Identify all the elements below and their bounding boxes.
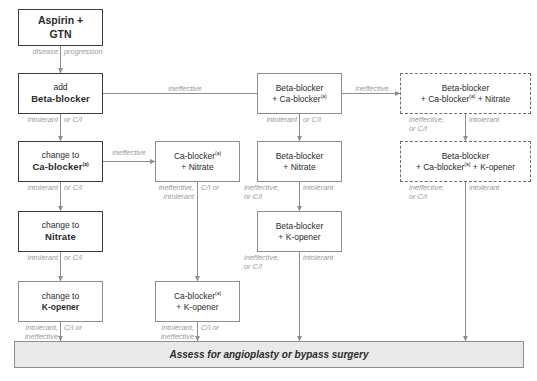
node-line-2: + Ca-blocker(a) xyxy=(272,94,327,105)
edge-label-ineffective-or-ci-col4: ineffective, or C/I xyxy=(409,115,465,133)
edge-label-ineffective-to-ca-blocker-nitrate: ineffective xyxy=(104,148,154,157)
node-line-1: Beta-blocker xyxy=(276,83,324,94)
edge-label-intolerant-col4b: intolerant xyxy=(469,183,525,192)
footnote-marker: (a) xyxy=(464,161,470,167)
node-change-to-nitrate[interactable]: change to Nitrate xyxy=(18,211,103,252)
node-line-1: Beta-blocker xyxy=(442,83,490,94)
node-line-1: Beta-blocker xyxy=(276,221,324,232)
edge-label-ineffective-to-bb-cab: ineffective xyxy=(150,84,220,93)
node-line-1: Aspirin + xyxy=(38,14,83,27)
node-line-2: K-opener xyxy=(42,302,79,313)
footnote-marker: (a) xyxy=(215,290,221,296)
edge-label-or-ci-1: or C/I xyxy=(64,115,114,124)
edge-label-ineffective-to-dashed: ineffective xyxy=(343,84,401,93)
node-ca-blocker-nitrate[interactable]: Ca-blocker(a) + Nitrate xyxy=(155,141,240,182)
edge-label-or-ci-3: or C/I xyxy=(64,253,114,262)
edge-label-intolerant-col3c: intolerant xyxy=(303,253,357,262)
footnote-marker: (a) xyxy=(82,161,88,167)
node-change-to-k-opener[interactable]: change to K-opener xyxy=(18,281,103,322)
footnote-marker: (a) xyxy=(321,93,327,99)
node-beta-blocker-nitrate[interactable]: Beta-blocker + Nitrate xyxy=(257,141,342,182)
node-line-2: Ca-blocker(a) xyxy=(32,161,88,173)
edge-label-ineffective-or-ci-col3b: ineffective, or C/I xyxy=(244,183,298,201)
edge-label-intolerant-2: intolerant xyxy=(6,183,58,192)
node-line-2: + K-opener xyxy=(176,302,218,313)
node-aspirin-gtn[interactable]: Aspirin + GTN xyxy=(18,9,103,46)
edge-label-ci-or-col2b: C/I or xyxy=(201,323,251,332)
edge-label-intolerant-col3: intolerant xyxy=(243,115,297,124)
node-line-1: change to xyxy=(42,220,79,231)
node-beta-blocker-ca-blocker[interactable]: Beta-blocker + Ca-blocker(a) xyxy=(257,73,342,114)
node-line-1: Beta-blocker xyxy=(276,151,324,162)
edge-label-intolerant-col3b: intolerant xyxy=(303,183,357,192)
node-line-2: + Ca-blocker(a) + Nitrate xyxy=(421,94,510,105)
outcome-banner-label: Assess for angioplasty or bypass surgery xyxy=(170,349,369,360)
edge-label-ineffective-or-ci-col3c: ineffective, or C/I xyxy=(244,253,298,271)
node-ca-blocker-k-opener[interactable]: Ca-blocker(a) + K-opener xyxy=(155,281,240,322)
edge-label-intolerant-3: intolerant xyxy=(6,253,58,262)
flowchart-canvas: Aspirin + GTN add Beta-blocker change to… xyxy=(0,0,537,381)
node-line-1: add xyxy=(53,82,67,93)
edge-label-or-ci-2: or C/I xyxy=(64,183,114,192)
node-line-2: GTN xyxy=(49,28,71,41)
node-line-1: change to xyxy=(42,150,79,161)
node-beta-blocker-ca-blocker-nitrate[interactable]: Beta-blocker + Ca-blocker(a) + Nitrate xyxy=(400,73,531,114)
node-line-2: + Nitrate xyxy=(283,162,315,173)
edge-label-intolerant-ineffective-col2b: intolerant, ineffective xyxy=(139,323,194,341)
footnote-marker: (a) xyxy=(215,150,221,156)
node-add-beta-blocker[interactable]: add Beta-blocker xyxy=(18,73,103,114)
edge-label-progression: progression xyxy=(64,47,134,56)
edge-label-or-ci-col3: or C/I xyxy=(303,115,353,124)
edge-label-ci-or-4: C/I or xyxy=(64,323,114,332)
node-line-1: change to xyxy=(42,291,79,302)
node-beta-blocker-k-opener[interactable]: Beta-blocker + K-opener xyxy=(257,211,342,252)
edge-label-disease: disease xyxy=(12,47,58,56)
node-line-2: Beta-blocker xyxy=(31,93,90,105)
outcome-banner[interactable]: Assess for angioplasty or bypass surgery xyxy=(14,341,524,368)
edge-label-ineffective-or-ci-col4b: ineffective, or C/I xyxy=(409,183,465,201)
edge-label-ineffective-intolerant-col2: ineffective, intolerant xyxy=(140,183,194,201)
edge-label-intolerant-col4: intolerant xyxy=(469,115,525,124)
node-line-2: + Nitrate xyxy=(181,162,213,173)
node-line-2: Nitrate xyxy=(45,231,76,243)
node-line-2: + Ca-blocker(a) + K-opener xyxy=(416,162,515,173)
node-line-1: Ca-blocker(a) xyxy=(174,291,221,302)
node-beta-blocker-ca-blocker-k-opener[interactable]: Beta-blocker + Ca-blocker(a) + K-opener xyxy=(400,141,531,182)
node-change-to-ca-blocker[interactable]: change to Ca-blocker(a) xyxy=(18,141,103,182)
page-footer-fragment xyxy=(60,369,530,378)
node-line-2: + K-opener xyxy=(278,232,320,243)
edge-label-intolerant-ineffective-4: intolerant, ineffective xyxy=(2,323,58,341)
edge-label-intolerant-1: intolerant xyxy=(6,115,58,124)
footnote-marker: (a) xyxy=(469,93,475,99)
node-line-1: Ca-blocker(a) xyxy=(174,151,221,162)
